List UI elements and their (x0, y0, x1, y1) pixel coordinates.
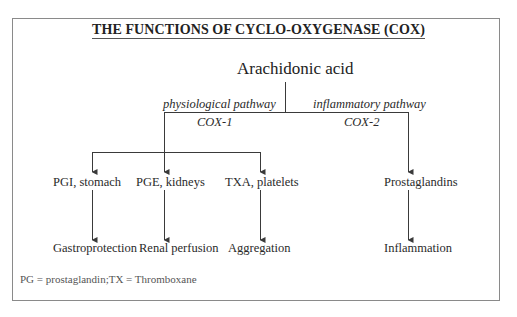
outcome-inflammation: Inflammation (384, 241, 452, 256)
mediator-prostaglandins: Prostaglandins (384, 175, 458, 190)
pathway-label-inflammatory: inflammatory pathway (313, 97, 426, 112)
mediator-pgi-stomach: PGI, stomach (53, 175, 121, 190)
enzyme-cox-1: COX-1 (197, 115, 232, 130)
enzyme-cox-2: COX-2 (344, 115, 379, 130)
mediator-pge-kidneys: PGE, kidneys (136, 175, 205, 190)
outcome-gastroprotection: Gastroprotection (53, 241, 137, 256)
mediator-txa-platelets: TXA, platelets (225, 175, 299, 190)
connector-lines (0, 0, 517, 317)
outcome-aggregation: Aggregation (228, 241, 290, 256)
outcome-renal-perfusion: Renal perfusion (139, 241, 219, 256)
pathway-label-physiological: physiological pathway (163, 97, 276, 112)
root-node-arachidonic-acid: Arachidonic acid (237, 59, 354, 79)
footnote-abbreviations: PG = prostaglandin;TX = Thromboxane (20, 273, 197, 285)
